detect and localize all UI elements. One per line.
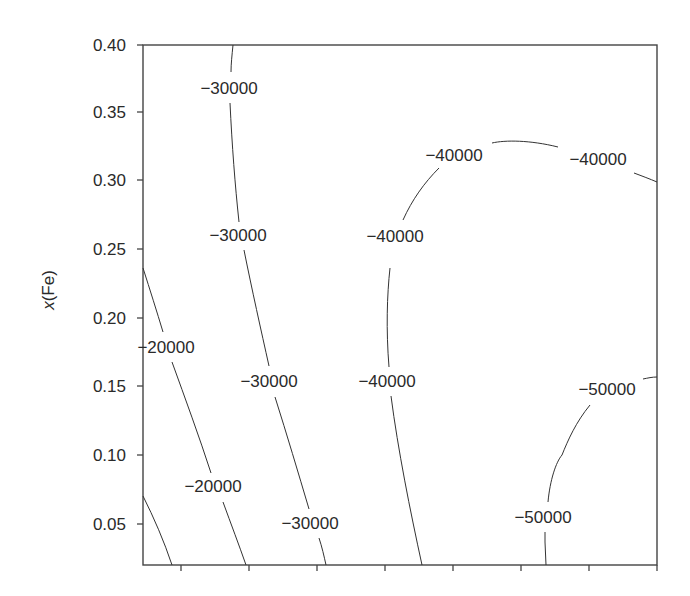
contour-line [230,103,239,222]
y-tick-label: 0.20 [93,309,126,328]
contour-line [143,268,163,332]
contour-line [244,250,269,366]
contour-line [231,45,233,72]
y-tick-label: 0.05 [93,515,126,534]
contour-chart: 0.40 0.35 0.30 0.25 0.20 0.15 0.10 0.05 … [0,0,690,596]
y-tick-label: 0.40 [93,36,126,55]
contour-line [548,405,590,502]
y-axis-label: x(Fe) [39,270,58,311]
contour-label: −30000 [281,514,338,533]
y-axis-ticks [137,45,143,524]
contour-line [545,532,546,565]
contour-label: −50000 [578,380,635,399]
contour-label: −20000 [137,338,194,357]
contour-line [492,141,558,147]
contour-line [643,377,657,379]
contour-minus-40000: −40000 −40000 −40000 −40000 [358,141,657,565]
contour-label: −50000 [514,508,571,527]
contour-line [387,268,390,367]
contour-line [143,496,172,565]
contour-label: −30000 [240,372,297,391]
y-tick-label: 0.15 [93,377,126,396]
contour-line [172,362,211,473]
y-axis-label-variable: x [39,301,58,311]
y-tick-label: 0.10 [93,446,126,465]
contour-line [223,502,246,565]
contour-label: −30000 [209,226,266,245]
contour-line [403,168,439,220]
contour-label: −30000 [200,79,257,98]
contour-label: −40000 [425,146,482,165]
contour-line [634,173,657,182]
y-tick-label: 0.25 [93,240,126,259]
contour-minus-50000: −50000 −50000 [514,377,657,565]
y-axis-tick-labels: 0.40 0.35 0.30 0.25 0.20 0.15 0.10 0.05 [93,36,126,534]
contour-line [275,397,309,509]
y-tick-label: 0.35 [93,103,126,122]
contour-line [391,396,422,565]
contour-line [319,538,326,565]
contour-label: −20000 [184,477,241,496]
contour-label: −40000 [358,372,415,391]
contour-minus-20000: −20000 −20000 [137,268,246,565]
y-tick-label: 0.30 [93,171,126,190]
y-axis-label-element: (Fe) [39,270,58,301]
x-axis-ticks [181,565,657,571]
contour-label: −40000 [569,150,626,169]
contour-label: −40000 [366,227,423,246]
